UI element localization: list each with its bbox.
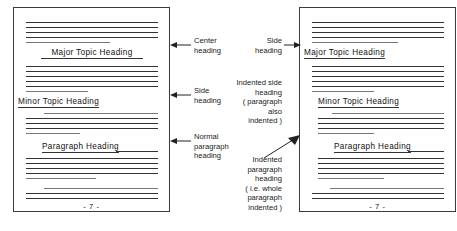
- text-line: [312, 71, 444, 72]
- text-line: [312, 86, 444, 87]
- text-line: [26, 163, 158, 164]
- sample-page-right: Major Topic Heading Minor Topic Heading …: [299, 7, 456, 212]
- text-line: [312, 27, 444, 28]
- text-line: [26, 32, 158, 33]
- text-line: [26, 133, 80, 134]
- arrow-to-center-heading: [170, 40, 192, 50]
- figure-canvas: Major Topic Heading Minor Topic Heading …: [0, 0, 457, 231]
- sample-page-left: Major Topic Heading Minor Topic Heading …: [13, 7, 170, 212]
- text-line: [318, 163, 444, 164]
- text-line: [318, 178, 384, 179]
- page-left-minor-topic-heading: Minor Topic Heading: [18, 97, 99, 108]
- text-line: [26, 86, 158, 87]
- page-right-content: Major Topic Heading Minor Topic Heading …: [300, 8, 455, 211]
- text-line: [26, 22, 158, 23]
- annotation-indented-paragraph-heading: Indented paragraph heading ( i.e. whole …: [224, 155, 282, 213]
- page-right-page-number: - 7 -: [300, 202, 455, 211]
- annotation-indented-side-heading: Indented side heading ( paragraph also i…: [224, 78, 282, 126]
- text-line: [26, 158, 158, 159]
- page-left-major-topic-heading: Major Topic Heading: [41, 48, 143, 59]
- text-line: [26, 81, 158, 82]
- text-line: [26, 198, 158, 199]
- text-line: [312, 91, 374, 92]
- page-right-major-topic-heading: Major Topic Heading: [304, 48, 385, 59]
- text-line: [26, 178, 96, 179]
- text-line: [26, 66, 158, 67]
- page-left-content: Major Topic Heading Minor Topic Heading …: [14, 8, 169, 211]
- text-line: [318, 158, 444, 159]
- text-line: [318, 123, 444, 124]
- text-line: [318, 173, 444, 174]
- arrow-to-normal-paragraph-heading: [170, 136, 192, 146]
- text-line: [312, 66, 444, 67]
- page-right-minor-topic-heading: Minor Topic Heading: [318, 97, 399, 108]
- arrow-to-side-heading-left: [170, 90, 192, 100]
- run-in-continuation-line: [116, 151, 158, 152]
- text-line: [312, 198, 444, 199]
- text-line: [26, 173, 158, 174]
- text-line: [318, 128, 444, 129]
- text-line: [26, 71, 158, 72]
- text-line: [26, 91, 88, 92]
- annotation-side-heading-right: Side heading: [232, 36, 282, 55]
- page-left-page-number: - 7 -: [14, 202, 169, 211]
- page-left-paragraph-heading: Paragraph Heading: [42, 142, 119, 153]
- text-line: [26, 123, 158, 124]
- page-right-paragraph-heading: Paragraph Heading: [334, 142, 411, 153]
- text-line: [26, 168, 158, 169]
- text-line: [26, 118, 158, 119]
- text-line: [26, 76, 158, 77]
- text-line: [26, 42, 110, 43]
- text-line: [318, 168, 444, 169]
- text-line: [318, 133, 374, 134]
- text-line: [318, 118, 444, 119]
- text-line: [26, 37, 158, 38]
- text-line: [26, 128, 158, 129]
- text-line: [332, 113, 444, 114]
- text-line: [312, 22, 444, 23]
- text-line: [312, 193, 444, 194]
- text-line: [312, 32, 444, 33]
- text-line: [312, 76, 444, 77]
- text-line: [26, 193, 158, 194]
- text-line: [312, 37, 444, 38]
- text-line: [44, 188, 158, 189]
- arrow-to-side-heading-right: [284, 40, 302, 50]
- text-line: [330, 188, 444, 189]
- text-line: [312, 81, 444, 82]
- text-line: [44, 113, 158, 114]
- run-in-continuation-line: [408, 151, 444, 152]
- text-line: [312, 42, 398, 43]
- text-line: [26, 27, 158, 28]
